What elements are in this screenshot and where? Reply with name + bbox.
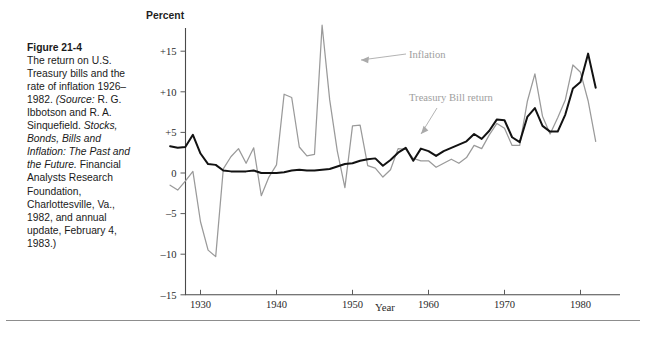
y-tick-label: 0 bbox=[171, 168, 176, 179]
arrowhead-treasury-bill bbox=[421, 126, 428, 134]
y-tick-label: +5 bbox=[165, 127, 176, 138]
y-axis-ticks: +15+10+50–5–10–15 bbox=[160, 46, 186, 301]
series-line-inflation bbox=[170, 25, 596, 256]
y-tick-label: –10 bbox=[160, 249, 177, 260]
series-line-treasury-bill bbox=[170, 54, 596, 173]
x-tick-label: 1970 bbox=[494, 299, 515, 310]
chart-container: +15+10+50–5–10–15 1930194019501960197019… bbox=[0, 0, 646, 337]
x-tick-label: 1950 bbox=[342, 299, 363, 310]
y-tick-label: –15 bbox=[160, 290, 177, 301]
x-tick-label: 1930 bbox=[190, 299, 211, 310]
annotation-inflation: Inflation bbox=[361, 49, 446, 63]
annotation-label-treasury-bill: Treasury Bill return bbox=[409, 92, 493, 103]
figure-page: Figure 21-4The return on U.S. Treasury b… bbox=[0, 0, 646, 337]
arrowhead-inflation bbox=[361, 57, 369, 64]
line-chart: +15+10+50–5–10–15 1930194019501960197019… bbox=[0, 0, 646, 337]
x-tick-label: 1980 bbox=[570, 299, 591, 310]
y-tick-label: –5 bbox=[165, 208, 177, 219]
x-axis-title: Year bbox=[375, 301, 395, 313]
y-axis-unit-label: Percent bbox=[146, 10, 185, 21]
x-tick-label: 1960 bbox=[418, 299, 439, 310]
y-tick-label: +10 bbox=[160, 87, 177, 98]
annotation-treasury-bill: Treasury Bill return bbox=[409, 92, 493, 134]
bottom-divider bbox=[6, 320, 640, 321]
axes-group bbox=[186, 28, 621, 295]
axis-lines bbox=[186, 28, 621, 295]
annotation-label-inflation: Inflation bbox=[409, 49, 446, 60]
y-tick-label: +15 bbox=[160, 46, 177, 57]
x-tick-label: 1940 bbox=[266, 299, 287, 310]
